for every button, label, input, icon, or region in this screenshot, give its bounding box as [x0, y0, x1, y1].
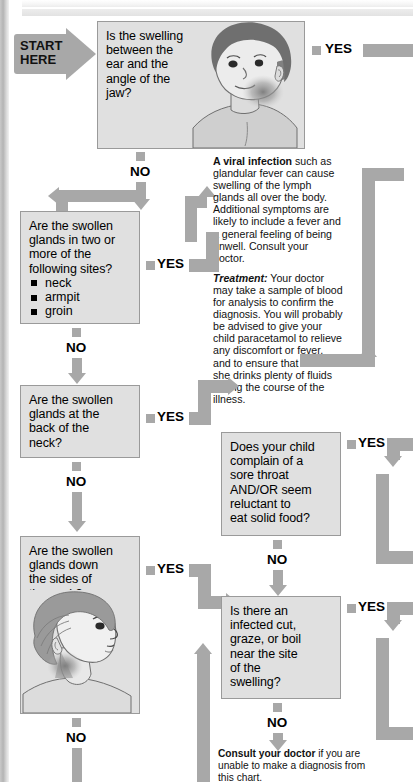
right-rail-elbow-2	[376, 551, 413, 564]
bullet-groin: groin	[31, 304, 139, 318]
no-arrow-3-head	[68, 521, 86, 532]
yes-arrow-3-head	[228, 377, 239, 395]
yes-chip-3	[146, 414, 155, 423]
question-5-text: Does your child complain of a sore throa…	[222, 433, 340, 525]
question-2-text: Are the swollen glands in two or more of…	[21, 212, 139, 276]
no-arrow-3-stem	[72, 492, 82, 524]
no-arrow-4-stem	[72, 748, 82, 782]
yes-label-4: YES	[157, 561, 184, 576]
right-rail-vertical-1	[362, 168, 375, 354]
no-label-2: NO	[66, 340, 86, 355]
no-chip-2	[72, 328, 81, 337]
flowchart-page: STARTHERE Is the swelling between the ea…	[0, 0, 413, 782]
question-box-3[interactable]: Are the swollen glands at the back of th…	[20, 385, 140, 458]
junction-arrow-head-1	[48, 187, 59, 205]
page-top-rule	[22, 9, 413, 16]
yes-chip-5	[347, 440, 356, 449]
footer-consult-note: Consult your doctor if you are unable to…	[218, 748, 366, 782]
viral-paragraph: A viral infection such as glandular feve…	[213, 155, 343, 264]
bullet-armpit: armpit	[31, 290, 139, 304]
advice-feed-arrow-horizontal	[185, 196, 207, 208]
yes-label-6: YES	[358, 599, 385, 614]
child-front-illustration	[185, 22, 304, 148]
yes-arrow-5-head	[384, 456, 402, 467]
no-label-1: NO	[130, 164, 150, 179]
no-label-6: NO	[267, 715, 287, 730]
question-box-5[interactable]: Does your child complain of a sore throa…	[221, 432, 341, 536]
yes-chip-2	[146, 261, 155, 270]
right-rail-head-1	[359, 346, 377, 357]
right-rail-top-elbow	[362, 168, 404, 181]
no-chip-3	[72, 462, 81, 471]
yes-label-1: YES	[325, 41, 352, 56]
yes-arrow-3-top	[198, 380, 230, 393]
no-arrow-5-head	[269, 585, 287, 596]
no-arrow-2-head	[68, 373, 86, 384]
question-2-bullets: neck armpit groin	[21, 276, 139, 319]
treatment-lead: Treatment:	[213, 272, 268, 284]
right-rail-elbow-3	[376, 727, 413, 740]
bullet-neck: neck	[31, 276, 139, 290]
yes-chip-1	[312, 46, 321, 55]
yes-label-5: YES	[358, 435, 385, 450]
yes-label-3: YES	[157, 409, 184, 424]
viral-body: such as glandular fever can cause swelli…	[213, 155, 341, 264]
no-label-3: NO	[66, 474, 86, 489]
footer-lead: Consult your doctor	[218, 748, 315, 759]
question-6-text: Is there an infected cut, graze, or boil…	[222, 597, 340, 689]
no-label-5: NO	[267, 552, 287, 567]
no-label-4: NO	[66, 730, 86, 745]
start-here-arrow: STARTHERE	[14, 28, 100, 80]
return-rail-vertical	[197, 652, 210, 782]
yes-arrow-2-up	[206, 232, 219, 272]
question-box-2[interactable]: Are the swollen glands in two or more of…	[20, 211, 140, 324]
child-side-illustration	[21, 590, 139, 713]
question-3-text: Are the swollen glands at the back of th…	[21, 386, 139, 450]
junction-arrow-horizontal-1	[56, 190, 140, 202]
page-left-gutter	[0, 0, 9, 782]
no-chip-4	[72, 718, 81, 727]
yes-chip-6	[347, 604, 356, 613]
right-rail-vertical-3	[376, 638, 389, 740]
start-here-label: STARTHERE	[20, 39, 76, 67]
no-chip-6	[273, 703, 282, 712]
yes-label-2: YES	[157, 256, 184, 271]
viral-lead: A viral infection	[213, 155, 292, 167]
viral-infection-advice: A viral infection such as glandular feve…	[213, 155, 343, 405]
yes-arrow-6-head	[384, 620, 402, 631]
no-chip-5	[273, 540, 282, 549]
return-rail-head	[194, 643, 212, 654]
yes-chip-4	[146, 566, 155, 575]
no-chip-1	[136, 152, 145, 161]
question-box-6[interactable]: Is there an infected cut, graze, or boil…	[221, 596, 341, 699]
page-top-crop	[22, 0, 413, 7]
yes-arrow-1	[363, 44, 413, 57]
